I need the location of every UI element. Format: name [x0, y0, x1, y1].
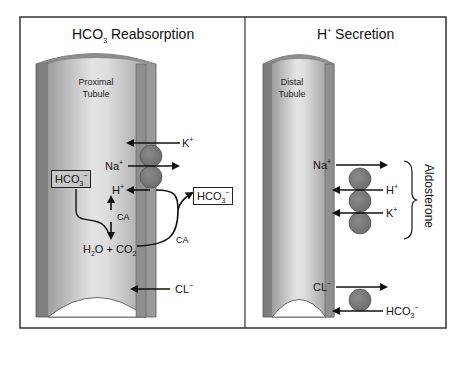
hco3-intracellular-box: HCO3−: [51, 170, 91, 188]
hco3-reabsorbed-box: HCO3−: [193, 187, 233, 205]
label-k-plus: K+: [182, 137, 193, 149]
renal-acid-base-diagram: HCO3 Reabsorption ProximalTubule K+ Na+ …: [0, 0, 463, 371]
panel-title-hco3-reabsorption: HCO3 Reabsorption: [72, 26, 194, 42]
label-h-plus: H+: [112, 184, 124, 196]
label-hco3-minus-distal: HCO3−: [386, 305, 418, 317]
label-aldosterone: Aldosterone: [422, 164, 436, 228]
label-k-plus-distal: K+: [386, 207, 397, 219]
label-na-plus-distal: Na+: [313, 159, 331, 171]
proximal-tubule-label: ProximalTubule: [66, 76, 126, 100]
label-cl-minus: CL−: [175, 283, 193, 295]
label-na-plus: Na+: [105, 160, 123, 172]
label-carbonic-anhydrase-outer: CA: [176, 234, 189, 246]
distal-tubule-label: DistalTubule: [270, 76, 314, 100]
label-carbonic-anhydrase-inner: CA: [117, 211, 130, 223]
label-h2o-co2: H2O + CO2: [83, 243, 136, 255]
label-cl-minus-distal: CL−: [313, 281, 331, 293]
label-h-plus-distal: H+: [386, 184, 398, 196]
panel-title-h-secretion: H+ Secretion: [317, 26, 394, 42]
